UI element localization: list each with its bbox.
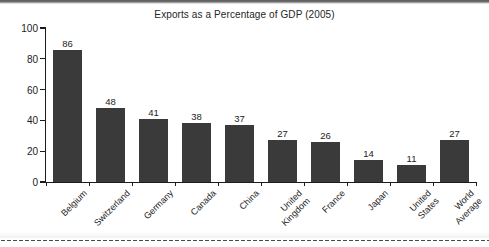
bar[interactable] xyxy=(397,165,425,182)
x-axis-category-label: China xyxy=(237,188,261,212)
bar-value-label: 14 xyxy=(348,148,388,159)
bar-value-label: 27 xyxy=(434,128,474,139)
scan-bottom-dotted-rule xyxy=(0,239,489,242)
x-axis-category-label-line: China xyxy=(237,188,261,212)
x-axis-tick xyxy=(261,182,262,186)
bar[interactable] xyxy=(311,142,339,182)
x-axis-tick xyxy=(132,182,133,186)
plot-area: 86484138372726141127 xyxy=(46,28,476,182)
x-axis-tick xyxy=(304,182,305,186)
bar[interactable] xyxy=(268,140,296,182)
x-axis-category-label: UnitedStates xyxy=(407,188,440,221)
bar[interactable] xyxy=(354,160,382,182)
scan-bottom-smudge xyxy=(0,232,489,238)
x-axis-category-label: Switzerland xyxy=(92,188,132,228)
x-axis-category-label-line: Japan xyxy=(365,188,390,213)
scan-top-band xyxy=(0,0,489,4)
x-axis-category-label-line: Canada xyxy=(188,188,218,218)
bar-value-label: 41 xyxy=(133,107,173,118)
bar-value-label: 11 xyxy=(391,153,431,164)
x-axis-category-label: France xyxy=(320,188,347,215)
bar[interactable] xyxy=(96,108,124,182)
x-axis-category-label: Canada xyxy=(188,188,218,218)
x-axis-category-label: WorldAverage xyxy=(445,188,483,226)
bar-value-label: 86 xyxy=(47,38,87,49)
x-axis-category-label-line: Switzerland xyxy=(92,188,132,228)
x-axis-tick xyxy=(175,182,176,186)
x-axis-category-label: UnitedKingdom xyxy=(271,188,311,228)
x-axis-tick xyxy=(46,182,47,186)
x-axis-category-label-line: Germany xyxy=(141,188,175,222)
bar[interactable] xyxy=(182,123,210,182)
y-axis-tick-label: 20 xyxy=(4,146,38,157)
x-axis-category-label-line: Belgium xyxy=(59,188,89,218)
x-axis-tick xyxy=(347,182,348,186)
x-axis-tick xyxy=(476,182,477,186)
x-axis-tick xyxy=(89,182,90,186)
bar-value-label: 26 xyxy=(305,130,345,141)
x-axis-category-label-line: France xyxy=(320,188,347,215)
chart-page: Exports as a Percentage of GDP (2005) 02… xyxy=(0,0,489,247)
x-axis-category-label: Germany xyxy=(141,188,175,222)
x-axis-tick xyxy=(390,182,391,186)
x-axis-tick xyxy=(218,182,219,186)
x-axis-category-label: Belgium xyxy=(59,188,89,218)
y-axis-tick-label: 40 xyxy=(4,115,38,126)
y-axis-tick-label: 0 xyxy=(4,177,38,188)
bar[interactable] xyxy=(53,50,81,182)
y-axis-tick-label: 100 xyxy=(4,23,38,34)
x-axis-category-label: Japan xyxy=(365,188,390,213)
bar[interactable] xyxy=(225,125,253,182)
bar[interactable] xyxy=(139,119,167,182)
bar-value-label: 27 xyxy=(262,128,302,139)
chart-title: Exports as a Percentage of GDP (2005) xyxy=(0,9,489,20)
bar-value-label: 37 xyxy=(219,113,259,124)
bar-value-label: 48 xyxy=(90,96,130,107)
bar-value-label: 38 xyxy=(176,111,216,122)
y-axis-tick-label: 60 xyxy=(4,84,38,95)
y-axis-tick-label: 80 xyxy=(4,53,38,64)
bar[interactable] xyxy=(440,140,468,182)
x-axis-tick xyxy=(433,182,434,186)
